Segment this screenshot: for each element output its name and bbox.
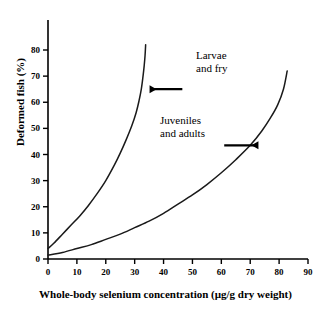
x-tick-label-20: 20 <box>101 268 110 277</box>
x-tick-label-60: 60 <box>217 268 226 277</box>
x-tick-label-30: 30 <box>130 268 139 277</box>
arrow-head-larvae-and-fry <box>150 85 157 93</box>
y-tick-label-0: 0 <box>18 255 40 264</box>
y-tick-label-10: 10 <box>18 228 40 237</box>
curve-juveniles-and-adults <box>48 71 287 255</box>
x-tick-label-10: 10 <box>72 268 81 277</box>
y-tick-label-20: 20 <box>18 202 40 211</box>
selenium-deformity-chart: 01020304050607080 0102030405060708090 De… <box>0 0 331 314</box>
annotation-label-larvae-and-fry: Larvae and fry <box>196 49 227 74</box>
y-axis-title: Deformed fish (%) <box>14 22 26 182</box>
x-axis-title: Whole-body selenium concentration (µg/g … <box>0 288 331 300</box>
annotation-label-juveniles-and-adults: Juveniles and adults <box>160 114 205 139</box>
x-tick-label-80: 80 <box>275 268 284 277</box>
x-tick-label-90: 90 <box>304 268 313 277</box>
axes <box>48 20 308 259</box>
x-tick-label-0: 0 <box>46 268 51 277</box>
arrow-larvae-and-fry <box>150 85 183 93</box>
data-series-group <box>48 45 287 255</box>
curve-larvae-and-fry <box>48 45 146 249</box>
x-tick-label-40: 40 <box>159 268 168 277</box>
x-tick-label-70: 70 <box>246 268 255 277</box>
x-tick-label-50: 50 <box>188 268 197 277</box>
